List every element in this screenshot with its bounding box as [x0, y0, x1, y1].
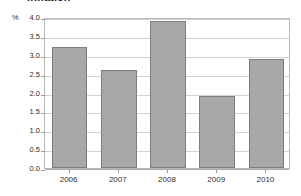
y-axis-tick-labels: 4.03.53.02.52.01.51.00.50.0: [0, 18, 40, 169]
bar-chart-figure: Inflation % 4.03.53.02.52.01.51.00.50.0 …: [0, 0, 301, 196]
x-axis-tick-label: 2009: [207, 175, 225, 185]
y-axis-tick-label: 2.0: [30, 90, 40, 98]
y-axis-tick-label: 3.5: [30, 33, 40, 41]
bar: [249, 59, 284, 168]
y-axis-tick-label: 0.5: [30, 146, 40, 154]
y-axis-tick-label: 2.5: [30, 71, 40, 79]
x-axis-tick-label: 2007: [109, 175, 127, 185]
x-axis-tick-mark: [118, 169, 119, 173]
x-axis-tick-label: 2008: [158, 175, 176, 185]
x-axis-tick-mark: [216, 169, 217, 173]
y-axis-tick-label: 3.0: [30, 52, 40, 60]
y-axis-tick-label: 0.0: [30, 165, 40, 173]
x-axis-tick-mark: [265, 169, 266, 173]
y-axis-tick-label: 4.0: [30, 14, 40, 22]
bar: [52, 47, 87, 168]
bars-group: [45, 19, 289, 168]
x-axis-tick-label: 2010: [256, 175, 274, 185]
x-axis-tick-mark: [167, 169, 168, 173]
x-axis-tick-mark: [69, 169, 70, 173]
plot-area: [44, 18, 290, 169]
chart-title: Inflation: [27, 0, 71, 3]
bar: [199, 96, 234, 168]
y-axis-tick-mark: [41, 170, 45, 171]
bar: [101, 70, 136, 168]
x-axis-tick-label: 2006: [60, 175, 78, 185]
bar: [150, 21, 185, 168]
y-axis-tick-label: 1.0: [30, 127, 40, 135]
y-axis-tick-label: 1.5: [30, 108, 40, 116]
